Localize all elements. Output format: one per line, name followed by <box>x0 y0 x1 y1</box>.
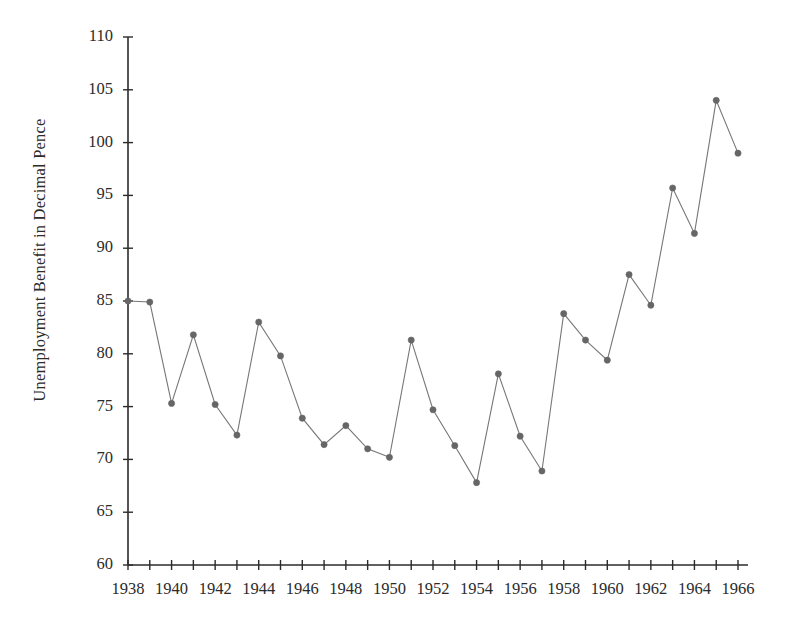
data-point <box>626 272 632 278</box>
y-tick-label: 95 <box>73 184 113 204</box>
y-tick-label: 75 <box>73 396 113 416</box>
data-point <box>561 311 567 317</box>
data-point <box>691 230 697 236</box>
data-point <box>256 319 262 325</box>
plot-area <box>0 0 785 628</box>
data-point <box>212 401 218 407</box>
data-point <box>713 97 719 103</box>
data-point <box>648 302 654 308</box>
data-point <box>190 332 196 338</box>
x-tick-label: 1966 <box>708 579 768 599</box>
y-tick-label: 65 <box>73 501 113 521</box>
y-tick-label: 70 <box>73 448 113 468</box>
unemployment-benefit-line-chart: Unemployment Benefit in Decimal Pence 60… <box>0 0 785 628</box>
data-point <box>452 443 458 449</box>
data-point <box>386 454 392 460</box>
data-point <box>473 480 479 486</box>
data-point <box>343 423 349 429</box>
data-point <box>321 442 327 448</box>
data-point <box>365 446 371 452</box>
y-tick-label: 105 <box>73 79 113 99</box>
y-tick-label: 60 <box>73 554 113 574</box>
data-point <box>147 299 153 305</box>
data-point <box>670 185 676 191</box>
data-point <box>234 432 240 438</box>
data-point <box>735 150 741 156</box>
y-tick-label: 110 <box>73 26 113 46</box>
data-markers-group <box>125 97 741 485</box>
data-point <box>539 468 545 474</box>
y-tick-label: 80 <box>73 343 113 363</box>
data-point <box>582 337 588 343</box>
data-point <box>125 298 131 304</box>
axes-group <box>123 37 748 570</box>
data-line <box>128 100 738 482</box>
y-tick-label: 90 <box>73 237 113 257</box>
y-tick-label: 85 <box>73 290 113 310</box>
y-tick-label: 100 <box>73 132 113 152</box>
data-point <box>299 415 305 421</box>
data-point <box>277 353 283 359</box>
data-point <box>408 337 414 343</box>
data-point <box>604 357 610 363</box>
data-point <box>495 371 501 377</box>
data-point <box>517 433 523 439</box>
data-point <box>168 400 174 406</box>
data-point <box>430 407 436 413</box>
